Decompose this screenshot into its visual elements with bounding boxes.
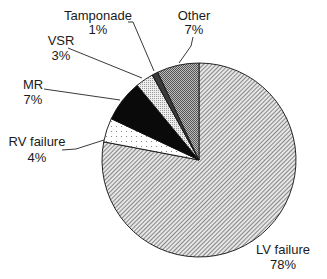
- label-tamponade-name: Tamponade: [64, 8, 132, 23]
- leader-line-other: [179, 37, 193, 63]
- label-lv-failure-pct: 78%: [270, 257, 296, 272]
- label-vsr-pct: 3%: [52, 48, 71, 63]
- pie-slices: [102, 63, 296, 257]
- leader-line-tamponade: [128, 22, 154, 71]
- label-lv-failure-name: LV failure: [256, 242, 310, 257]
- leader-line-mr: [44, 89, 120, 100]
- leader-line-rv: [62, 140, 104, 150]
- label-mr-name: MR: [23, 77, 43, 92]
- label-tamponade-pct: 1%: [89, 22, 108, 37]
- label-rv-failure-pct: 4%: [28, 150, 47, 165]
- pie-chart: RV failure 4% MR 7% VSR 3% Tamponade 1% …: [0, 0, 327, 279]
- label-mr-pct: 7%: [24, 92, 43, 107]
- label-vsr-name: VSR: [48, 33, 75, 48]
- label-other-pct: 7%: [185, 22, 204, 37]
- leader-line-vsr: [68, 48, 142, 78]
- label-rv-failure-name: RV failure: [9, 134, 66, 149]
- label-other-name: Other: [178, 8, 211, 23]
